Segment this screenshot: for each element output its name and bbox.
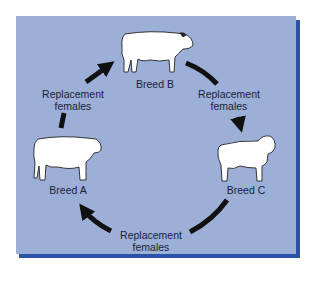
arrow-c-to-a	[84, 200, 227, 232]
cow-icon	[34, 137, 101, 180]
edge-label-c-to-a: Replacement females	[120, 229, 182, 253]
node-label-breed-c: Breed C	[227, 184, 266, 196]
edge-label-a-to-b: Replacement females	[42, 88, 104, 112]
node-label-breed-b: Breed B	[136, 78, 174, 90]
edge-label-b-to-c: Replacement females	[198, 88, 260, 112]
brahman-bull-icon	[218, 136, 275, 181]
node-label-breed-a: Breed A	[49, 184, 86, 196]
cow-icon	[122, 32, 193, 72]
